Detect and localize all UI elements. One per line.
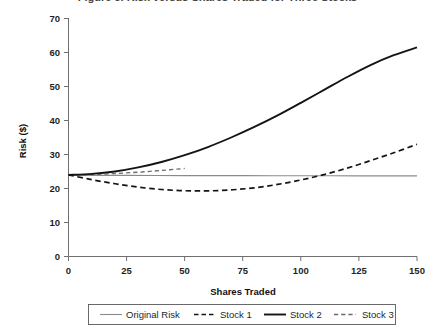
- figure-title-text: Figure 3. Risk versus Shares Traded for …: [0, 0, 435, 3]
- legend-label-stock-3: Stock 3: [362, 309, 394, 320]
- x-tick-label: 125: [351, 265, 368, 276]
- x-tick-label: 50: [179, 265, 190, 276]
- series-group: [69, 47, 418, 191]
- x-tick-label: 0: [66, 265, 71, 276]
- x-tick-label: 25: [121, 265, 132, 276]
- y-axis-ticks: 0 10 20 30 40 50 60 70: [49, 13, 68, 262]
- x-axis-title: Shares Traded: [210, 286, 276, 297]
- legend-label-original-risk: Original Risk: [126, 309, 180, 320]
- y-tick-label: 60: [49, 47, 60, 58]
- x-axis-ticks: 0 25 50 75 100 125 150: [66, 257, 425, 277]
- series-line-stock-1: [69, 144, 418, 191]
- y-tick-label: 10: [49, 217, 60, 228]
- legend: Original Risk Stock 1 Stock 2 Stock 3: [89, 305, 396, 325]
- y-tick-label: 50: [49, 81, 60, 92]
- y-tick-label: 20: [49, 183, 60, 194]
- chart-canvas: 0 10 20 30 40 50 60 70 0 25 50: [0, 0, 435, 331]
- y-tick-label: 0: [55, 251, 60, 262]
- y-axis-title: Risk ($): [17, 124, 28, 158]
- x-tick-label: 150: [409, 265, 425, 276]
- x-tick-label: 75: [237, 265, 248, 276]
- legend-label-stock-1: Stock 1: [220, 309, 252, 320]
- series-line-stock-2: [69, 47, 418, 174]
- y-tick-label: 40: [49, 115, 60, 126]
- figure-container: Figure 3. Risk versus Shares Traded for …: [0, 0, 435, 331]
- x-tick-label: 100: [293, 265, 309, 276]
- y-tick-label: 70: [49, 13, 60, 24]
- figure-title-truncated: Figure 3. Risk versus Shares Traded for …: [0, 0, 435, 3]
- legend-label-stock-2: Stock 2: [290, 309, 322, 320]
- series-line-original-risk: [69, 175, 418, 176]
- y-tick-label: 30: [49, 149, 60, 160]
